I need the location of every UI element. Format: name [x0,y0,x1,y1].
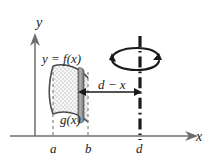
y-axis [30,33,40,136]
shell-radius-label: d − x [98,78,126,91]
x-axis-label: x [196,130,202,144]
rotation-ellipse [112,48,159,70]
rotation-arrow-icon [109,48,162,70]
x-tick-label-d: d [136,142,143,155]
x-tick-label-b: b [85,142,92,155]
shell-method-diagram: y x y = f(x) g(x) d − x a b d [0,0,210,166]
x-axis [10,131,198,141]
x-tick-label-a: a [50,142,57,155]
distance-arrowhead-right [134,88,142,96]
function-lower-label: g(x) [60,113,81,126]
y-axis-label: y [36,16,42,30]
region-left-arc [49,66,53,114]
function-upper-label: y = f(x) [42,52,81,65]
